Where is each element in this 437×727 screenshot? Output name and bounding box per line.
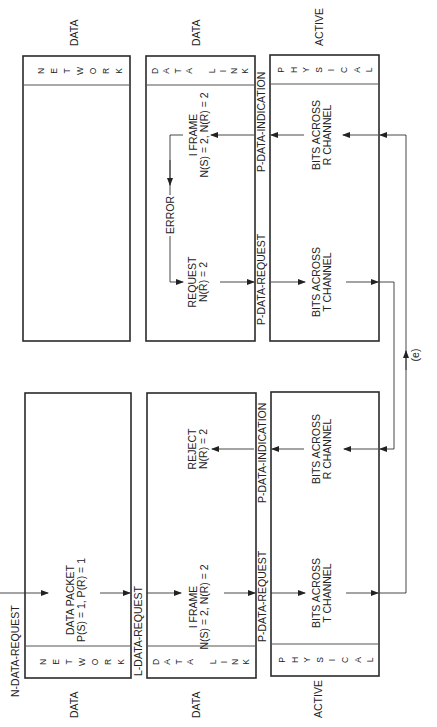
station-b-network-header: NETWORK <box>36 67 124 75</box>
layer-letter: D <box>151 659 161 665</box>
protocol-diagram: NETWORKDATALINKPHYSICALNETWORKDATALINKPH… <box>0 0 437 727</box>
station-a-t-channel-label: BITS ACROSS T CHANNEL <box>310 558 333 628</box>
svg-text:P(S) = 1, P(R) = 1: P(S) = 1, P(R) = 1 <box>75 558 87 642</box>
link-e-label: (e) <box>409 349 421 362</box>
layer-letter: O <box>90 658 100 665</box>
layer-letter: P <box>277 657 287 663</box>
layer-letter: I <box>219 661 229 663</box>
layer-letter: H <box>290 657 300 663</box>
layer-letter: Y <box>302 657 312 663</box>
station-a-network-state: DATA <box>68 692 80 718</box>
n-data-request-label: N-DATA-REQUEST <box>9 605 21 697</box>
layer-letter: A <box>184 68 194 74</box>
layer-letter: K <box>114 68 124 74</box>
layer-letter: N <box>38 659 48 665</box>
station-a-network-header: NETWORK <box>38 658 126 666</box>
station-a-datalink-state: DATA <box>190 692 202 718</box>
station-b-p-data-indication-label: P-DATA-INDICATION <box>255 72 267 172</box>
svg-text:N(S) = 2, N(R) = 2: N(S) = 2, N(R) = 2 <box>198 92 210 177</box>
layer-letter: C <box>339 67 349 73</box>
layer-letter: H <box>289 67 299 73</box>
layer-letter: R <box>101 68 111 74</box>
layer-letter: L <box>207 68 217 73</box>
layer-letter: S <box>314 67 324 73</box>
layer-letter: I <box>218 70 228 72</box>
station-b-network-state: DATA <box>68 20 80 46</box>
error-label: ERROR <box>164 196 176 234</box>
station-a-p-data-request-label: P-DATA-REQUEST <box>256 550 268 642</box>
station-b-t-channel-label: BITS ACROSS T CHANNEL <box>310 247 333 317</box>
layer-letter: C <box>340 657 350 663</box>
svg-text:N(R) = 2: N(R) = 2 <box>197 429 209 469</box>
layer-letter: K <box>240 68 250 74</box>
reject-label: REJECT N(R) = 2 <box>186 428 209 469</box>
layer-letter: T <box>62 68 72 73</box>
layer-letter: A <box>352 67 362 73</box>
layer-letter: T <box>64 659 74 664</box>
layer-letter: I <box>327 659 337 661</box>
layer-letter: A <box>353 657 363 663</box>
station-a-p-data-indication-label: P-DATA-INDICATION <box>256 403 268 503</box>
layer-letter: L <box>365 657 375 662</box>
layer-letter: T <box>173 68 183 73</box>
layer-letter: K <box>116 659 126 665</box>
station-a-r-channel-label: BITS ACROSS R CHANNEL <box>310 414 333 484</box>
station-b-physical-state: ACTIVE <box>313 8 325 46</box>
layer-letter: P <box>276 67 286 73</box>
layer-letter: N <box>229 68 239 74</box>
station-b-p-data-request-label: P-DATA-REQUEST <box>255 233 267 325</box>
layer-letter: E <box>49 68 59 74</box>
l-data-request-label: L-DATA-REQUEST <box>132 585 144 676</box>
station-b-r-channel-label: BITS ACROSS R CHANNEL <box>310 100 333 170</box>
layer-letter: A <box>161 68 171 74</box>
svg-text:T CHANNEL: T CHANNEL <box>321 252 333 311</box>
layer-letter: L <box>364 67 374 72</box>
layer-letter: S <box>315 657 325 663</box>
svg-text:R CHANNEL: R CHANNEL <box>321 419 333 480</box>
layer-letter: W <box>77 658 87 666</box>
t-to-r-channel-link-e <box>379 135 406 593</box>
request-label: REQUEST N(R) = 2 <box>186 256 209 307</box>
layer-letter: E <box>51 659 61 665</box>
layer-letter: N <box>36 68 46 74</box>
data-packet-label: DATA PACKET P(S) = 1, P(R) = 1 <box>64 558 87 642</box>
station-a-physical-state: ACTIVE <box>312 680 324 718</box>
layer-letter: A <box>162 659 172 665</box>
layer-letter: K <box>241 659 251 665</box>
svg-text:N(S) = 2, N(R) = 2: N(S) = 2, N(R) = 2 <box>198 564 210 649</box>
svg-text:N(R) = 2: N(R) = 2 <box>197 262 209 302</box>
layer-letter: N <box>230 659 240 665</box>
layer-letter: A <box>185 659 195 665</box>
layer-letter: T <box>174 659 184 664</box>
station-b-network-box <box>23 56 130 341</box>
layer-letter: I <box>326 69 336 71</box>
svg-text:T CHANNEL: T CHANNEL <box>321 563 333 622</box>
layer-letter: O <box>88 67 98 74</box>
svg-text:R CHANNEL: R CHANNEL <box>321 105 333 166</box>
layer-letter: L <box>208 659 218 664</box>
layer-letter: W <box>75 67 85 75</box>
layer-letter: R <box>103 659 113 665</box>
layer-letter: Y <box>301 67 311 73</box>
layer-letter: D <box>150 68 160 74</box>
t-to-r-channel-link <box>379 282 394 449</box>
station-b-datalink-state: DATA <box>190 20 202 46</box>
